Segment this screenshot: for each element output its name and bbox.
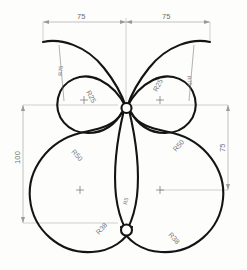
radius-label-left-wing: R75 bbox=[57, 65, 64, 76]
cad-drawing-svg: 75 75 100 75 bbox=[0, 0, 247, 270]
arrow-top-right-outer bbox=[204, 20, 210, 24]
arrow-left-top bbox=[21, 105, 25, 111]
radius-label-left-tail: R38 bbox=[95, 221, 109, 235]
dimension-label-right-height: 75 bbox=[218, 143, 227, 152]
radius-label-right-tail: R38 bbox=[167, 231, 181, 245]
radius-label-right-wing: R75 bbox=[186, 75, 193, 86]
arrow-right-bottom bbox=[226, 184, 230, 190]
body-left-edge bbox=[115, 110, 125, 228]
arrow-top-left-outer bbox=[43, 20, 49, 24]
dimension-label-top-left: 75 bbox=[77, 12, 86, 21]
arrow-left-bottom bbox=[21, 217, 25, 223]
center-mark-layer bbox=[76, 96, 164, 194]
lower-joint-node bbox=[121, 225, 132, 236]
right-wing-outer-arc bbox=[127, 41, 210, 107]
arrow-right-top bbox=[226, 105, 230, 111]
body-right-edge bbox=[128, 110, 138, 228]
technical-drawing-canvas: 75 75 100 75 bbox=[0, 0, 247, 270]
arrow-top-left-inner bbox=[120, 20, 126, 24]
dimension-label-top-right: 75 bbox=[162, 12, 171, 21]
radius-label-upper-left-circle: R25 bbox=[85, 89, 97, 104]
lower-left-circle bbox=[30, 113, 132, 252]
radius-label-lower-left-circle: R50 bbox=[70, 148, 84, 162]
arrow-top-right-inner bbox=[126, 20, 132, 24]
dimension-label-left-height: 100 bbox=[13, 151, 22, 164]
left-wing-outer-arc bbox=[43, 41, 126, 107]
radius-label-lower-right-circle: R50 bbox=[172, 138, 186, 152]
radius-label-neck: R5 bbox=[122, 197, 129, 205]
upper-joint-node bbox=[122, 103, 132, 113]
radius-annotation-layer: R75 R75 R25 R25 R50 R50 R5 R38 R38 bbox=[57, 45, 194, 245]
